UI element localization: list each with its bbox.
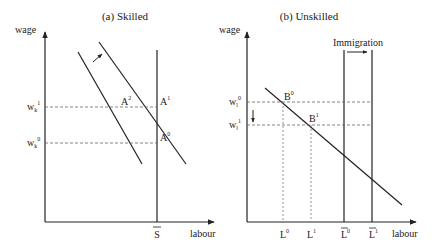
point-b0: B0 [284,90,294,102]
wage-label-wl0: wl0 [229,95,241,108]
demand-curve-unskilled [265,88,402,205]
wage-label-wk1: wk1 [27,100,40,113]
panel-skilled: (a) Skilled wage labour S wk1 wk0 A2 A1 … [15,10,216,240]
y-axis-label: wage [219,24,241,35]
x-tick-l0-bar: L0 [341,228,350,240]
x-tick-s-bar: S [154,229,160,240]
point-a0: A0 [160,131,170,143]
x-tick-l1-bar: L1 [369,228,378,240]
demand-curve-initial [78,52,142,164]
x-tick-l1: L1 [307,228,316,240]
point-a1: A1 [160,95,170,107]
demand-shift-arrow-icon [93,54,102,62]
x-axis-label: labour [392,228,418,239]
labour-market-diagram: (a) Skilled wage labour S wk1 wk0 A2 A1 … [0,0,432,252]
y-axis-label: wage [15,24,37,35]
x-axis-label: labour [190,228,216,239]
panel-title-skilled: (a) Skilled [102,10,149,23]
wage-label-wl1: wl1 [229,118,241,131]
x-tick-l0: L0 [280,228,289,240]
point-b1: B1 [309,112,319,124]
demand-curve-shifted [99,42,186,164]
panel-title-unskilled: (b) Unskilled [280,10,339,23]
wage-label-wk0: wk0 [27,136,40,149]
point-a2: A2 [121,95,131,107]
panel-unskilled: (b) Unskilled wage labour Immigration wl… [219,10,418,240]
immigration-label: Immigration [333,37,383,48]
